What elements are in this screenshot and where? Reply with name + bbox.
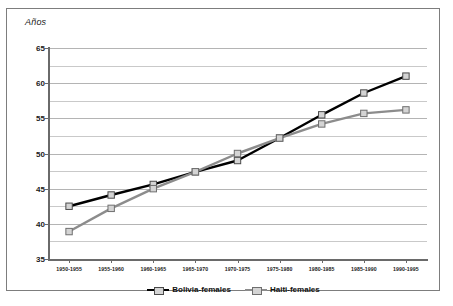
data-point-marker xyxy=(234,157,240,163)
data-point-marker xyxy=(276,135,282,141)
y-axis-tick-mark xyxy=(45,118,49,119)
series-line-2 xyxy=(69,110,406,232)
legend-swatch-icon xyxy=(147,286,169,294)
data-point-marker xyxy=(361,90,367,96)
legend-swatch-icon xyxy=(245,286,267,294)
legend-item-1[interactable]: Bolivia-females xyxy=(147,285,231,294)
data-point-marker xyxy=(66,203,72,209)
y-axis-tick-mark xyxy=(45,224,49,225)
data-point-marker xyxy=(319,112,325,118)
legend-label: Bolivia-females xyxy=(172,286,231,295)
chart-frame: Años 65605550454035 1950-19551955-196019… xyxy=(6,8,440,291)
legend-label: Haiti-females xyxy=(270,286,320,295)
y-axis-tick-mark xyxy=(45,189,49,190)
series-line-1 xyxy=(69,76,406,206)
y-axis-tick-mark xyxy=(45,154,49,155)
series-lines-layer xyxy=(7,9,453,306)
data-point-marker xyxy=(361,110,367,116)
legend-item-2[interactable]: Haiti-females xyxy=(245,285,320,294)
data-point-marker xyxy=(150,185,156,191)
data-point-marker xyxy=(66,228,72,234)
data-point-marker xyxy=(319,121,325,127)
data-point-marker xyxy=(234,150,240,156)
data-point-marker xyxy=(403,107,409,113)
data-point-marker xyxy=(192,169,198,175)
data-point-marker xyxy=(403,73,409,79)
data-point-marker xyxy=(108,192,114,198)
y-axis-tick-mark xyxy=(45,83,49,84)
y-axis-tick-mark xyxy=(45,259,49,260)
chart-legend: Bolivia-femalesHaiti-females xyxy=(7,285,453,295)
data-point-marker xyxy=(108,205,114,211)
y-axis-tick-mark xyxy=(45,48,49,49)
